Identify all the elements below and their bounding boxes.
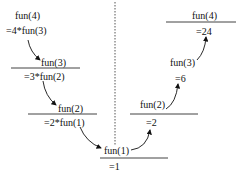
ascent-result-fun4: =24 <box>196 26 212 37</box>
descent-expr-fun2: =2*fun(1) <box>44 117 85 128</box>
arrow-fun4-to-fun3 <box>28 40 40 60</box>
base-result-fun1: =1 <box>109 161 120 172</box>
ascent-result-fun2: =2 <box>146 117 157 128</box>
descent-call-fun3: fun(3) <box>41 57 66 68</box>
arrow-fun1-to-result2 <box>131 130 150 150</box>
arrow-fun2-to-fun1 <box>80 127 101 148</box>
ascent-call-fun3: fun(3) <box>170 57 195 68</box>
arrow-fun3-to-fun2 <box>43 81 56 105</box>
ascent-call-fun2: fun(2) <box>140 99 165 110</box>
arrow-fun3-to-result24 <box>197 37 206 60</box>
ascent-call-fun4: fun(4) <box>192 10 217 21</box>
ascent-result-fun3: =6 <box>175 73 186 84</box>
base-call-fun1: fun(1) <box>104 145 129 156</box>
descent-expr-fun4: =4*fun(3) <box>6 25 47 36</box>
arrow-fun2-to-result6 <box>166 84 178 109</box>
descent-call-fun4: fun(4) <box>15 10 40 21</box>
descent-call-fun2: fun(2) <box>58 103 83 114</box>
descent-expr-fun3: =3*fun(2) <box>24 71 65 82</box>
